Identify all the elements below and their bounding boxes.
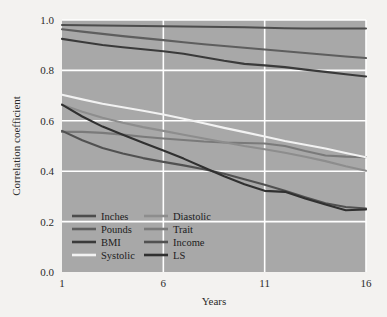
y-tick-label: 0.8 [40,64,54,76]
correlation-line-chart: 0.00.20.40.60.81.0 161116 Correlation co… [0,0,387,317]
legend-label-systolic: Systolic [101,250,135,261]
legend-label-trait: Trait [173,224,193,235]
y-tick-label: 0.0 [40,266,54,278]
y-tick-label: 0.2 [40,216,54,228]
legend-label-bmi: BMI [101,237,121,248]
x-tick-label: 6 [161,277,167,289]
x-tick-label: 16 [361,277,373,289]
legend-label-diastolic: Diastolic [173,211,211,222]
y-tick-label: 0.4 [40,165,54,177]
legend-label-inches: Inches [101,211,128,222]
legend-label-income: Income [173,237,205,248]
legend-label-ls: LS [173,250,185,261]
y-tick-label: 0.6 [40,115,54,127]
x-tick-label: 11 [259,277,270,289]
x-axis-title: Years [202,295,227,307]
figure-container: 0.00.20.40.60.81.0 161116 Correlation co… [0,0,387,317]
y-tick-label: 1.0 [40,14,54,26]
x-tick-label: 1 [59,277,65,289]
y-axis-title: Correlation coefficient [10,96,22,196]
legend-label-pounds: Pounds [101,224,132,235]
